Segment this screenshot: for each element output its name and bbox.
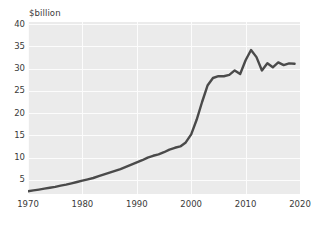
- x-tick-label: 1990: [117, 199, 157, 209]
- line-chart: $billion 510152025303540 197019801990200…: [0, 0, 315, 225]
- x-tick-label: 2010: [226, 199, 266, 209]
- x-tick-label: 1980: [62, 199, 102, 209]
- x-tick-label: 1970: [8, 199, 48, 209]
- x-axis-ticks: 197019801990200020102020: [0, 0, 315, 225]
- x-tick-label: 2020: [280, 199, 315, 209]
- x-tick-label: 2000: [171, 199, 211, 209]
